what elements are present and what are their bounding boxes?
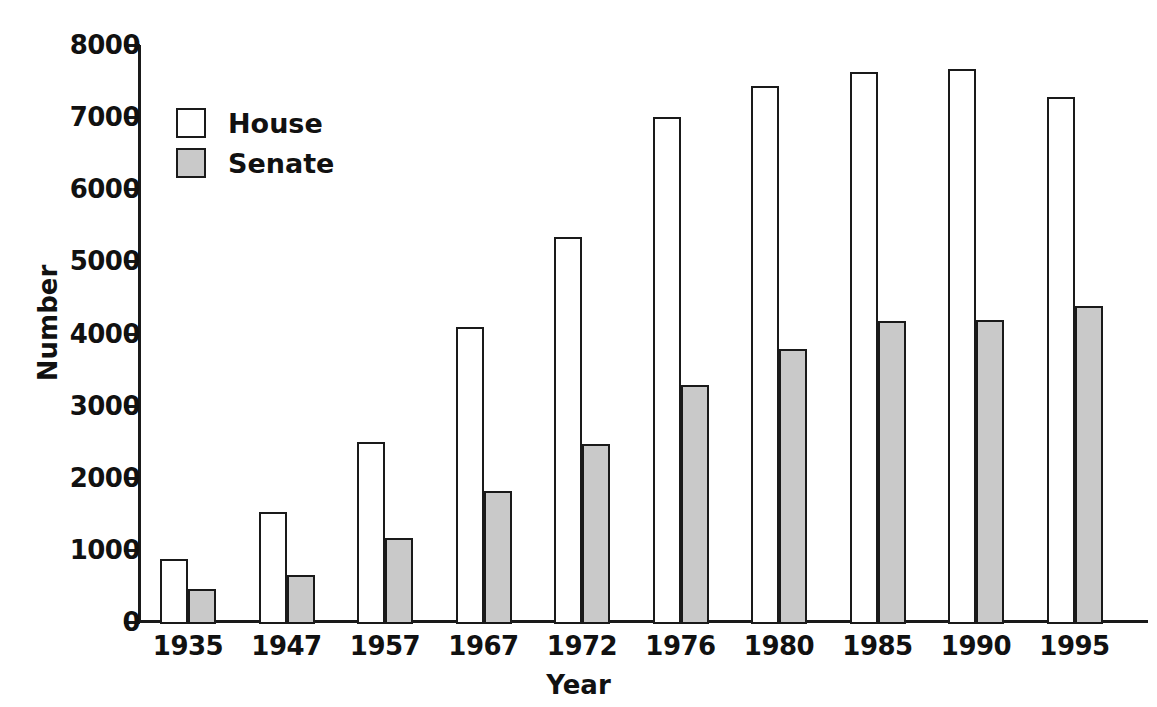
y-axis-tick-label: 1000	[30, 537, 140, 563]
y-axis-title: Number	[35, 243, 61, 403]
bar-house-1985	[850, 72, 878, 624]
x-axis-tick-label: 1995	[1015, 633, 1135, 659]
legend-swatch-house-icon	[176, 108, 206, 138]
bar-senate-1990	[976, 320, 1004, 624]
bar-chart: 010002000300040005000600070008000 193519…	[0, 0, 1157, 707]
legend-item-senate: Senate	[176, 144, 334, 182]
y-axis-tick-label: 6000	[30, 176, 140, 202]
bar-house-1980	[751, 86, 779, 624]
bar-house-1990	[948, 69, 976, 624]
bar-house-1967	[456, 327, 484, 624]
y-axis-tick-label: 2000	[30, 465, 140, 491]
bar-senate-1972	[582, 444, 610, 624]
bar-house-1947	[259, 512, 287, 624]
bar-house-1957	[357, 442, 385, 624]
legend-label-house: House	[228, 110, 323, 137]
bar-senate-1935	[188, 589, 216, 624]
y-axis-tick-label: 7000	[30, 104, 140, 130]
bar-house-1976	[653, 117, 681, 624]
y-axis-tick-label: 0	[30, 609, 140, 635]
bar-senate-1967	[484, 491, 512, 624]
bar-senate-1976	[681, 385, 709, 624]
legend-swatch-senate-icon	[176, 148, 206, 178]
x-axis-title: Year	[0, 672, 1157, 698]
bar-senate-1985	[878, 321, 906, 624]
chart-legend: House Senate	[176, 104, 334, 184]
bar-senate-1980	[779, 349, 807, 624]
bar-house-1995	[1047, 97, 1075, 624]
bar-house-1972	[554, 237, 582, 624]
bar-house-1935	[160, 559, 188, 624]
legend-label-senate: Senate	[228, 150, 334, 177]
bar-senate-1947	[287, 575, 315, 624]
y-axis-tick-label: 8000	[30, 32, 140, 58]
legend-item-house: House	[176, 104, 334, 142]
bar-senate-1957	[385, 538, 413, 624]
bar-senate-1995	[1075, 306, 1103, 624]
